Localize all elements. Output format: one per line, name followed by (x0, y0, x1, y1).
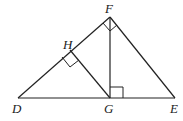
segment-DF (18, 17, 110, 98)
label-E: E (169, 101, 178, 116)
segment-GH (70, 50, 110, 98)
label-G: G (104, 101, 114, 116)
label-F: F (104, 1, 114, 16)
label-D: D (11, 101, 22, 116)
label-H: H (62, 37, 73, 52)
right-angle-mark-G (110, 87, 123, 98)
segment-FE (110, 17, 175, 98)
geometry-diagram: F H D G E (0, 0, 183, 121)
